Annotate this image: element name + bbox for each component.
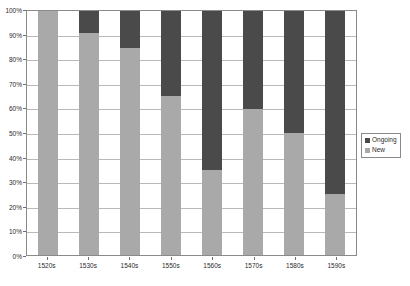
- bar-column-1540s: [109, 11, 150, 255]
- plot-area: [26, 10, 357, 256]
- x-tick-1570s: 1570s: [233, 257, 274, 279]
- bar-column-1560s: [192, 11, 233, 255]
- x-tick-mark-1520s: [47, 257, 48, 260]
- bar-segment-new-1590s: [325, 194, 345, 255]
- x-tick-mark-1590s: [336, 257, 337, 260]
- x-tick-label-1560s: 1560s: [192, 262, 233, 270]
- x-axis: 1520s1530s1540s1550s1560s1570s1580s1590s: [26, 257, 357, 279]
- x-tick-1540s: 1540s: [109, 257, 150, 279]
- bar-column-1570s: [233, 11, 274, 255]
- y-tick-label-30: 30%: [9, 179, 22, 186]
- bar-stack-1580s: [284, 11, 304, 255]
- x-tick-1590s: 1590s: [316, 257, 357, 279]
- x-tick-mark-1560s: [212, 257, 213, 260]
- bar-stack-1520s: [38, 11, 58, 255]
- x-tick-mark-1540s: [129, 257, 130, 260]
- x-tick-label-1570s: 1570s: [233, 262, 274, 270]
- bar-stack-1530s: [79, 11, 99, 255]
- legend-item-new: New: [365, 146, 397, 154]
- x-tick-1530s: 1530s: [67, 257, 108, 279]
- bar-segment-ongoing-1580s: [284, 11, 304, 133]
- y-tick-label-20: 20%: [9, 203, 22, 210]
- bar-stack-1570s: [243, 11, 263, 255]
- bar-segment-ongoing-1560s: [202, 11, 222, 170]
- bar-segment-new-1570s: [243, 109, 263, 255]
- y-tick-label-0: 0%: [13, 253, 22, 260]
- y-axis: 100% 90% 80% 70% 60% 50% 40% 30% 20% 10%…: [0, 0, 26, 266]
- x-tick-label-1520s: 1520s: [26, 262, 67, 270]
- bar-column-1550s: [150, 11, 191, 255]
- stacked-bar-chart: 100% 90% 80% 70% 60% 50% 40% 30% 20% 10%…: [0, 0, 410, 286]
- x-tick-mark-1530s: [88, 257, 89, 260]
- bar-segment-new-1530s: [79, 33, 99, 255]
- x-tick-label-1530s: 1530s: [67, 262, 108, 270]
- y-tick-label-10: 10%: [9, 228, 22, 235]
- bar-segment-ongoing-1530s: [79, 11, 99, 33]
- x-tick-1580s: 1580s: [274, 257, 315, 279]
- x-tick-mark-1550s: [171, 257, 172, 260]
- bar-segment-ongoing-1570s: [243, 11, 263, 109]
- y-tick-label-80: 80%: [9, 56, 22, 63]
- bar-stack-1560s: [202, 11, 222, 255]
- y-tick-label-70: 70%: [9, 80, 22, 87]
- legend-label-new: New: [372, 146, 385, 154]
- bar-segment-ongoing-1540s: [120, 11, 140, 48]
- bar-column-1530s: [68, 11, 109, 255]
- bar-segment-new-1580s: [284, 133, 304, 255]
- bar-column-1590s: [315, 11, 356, 255]
- x-tick-label-1540s: 1540s: [109, 262, 150, 270]
- bar-stack-1590s: [325, 11, 345, 255]
- x-tick-label-1590s: 1590s: [316, 262, 357, 270]
- y-tick-label-40: 40%: [9, 154, 22, 161]
- x-tick-mark-1580s: [295, 257, 296, 260]
- legend-label-ongoing: Ongoing: [372, 136, 397, 144]
- bar-segment-new-1550s: [161, 96, 181, 255]
- bar-stack-1550s: [161, 11, 181, 255]
- bar-segment-new-1560s: [202, 170, 222, 255]
- bar-segment-ongoing-1590s: [325, 11, 345, 194]
- y-tick-label-100: 100%: [5, 7, 22, 14]
- chart-legend: Ongoing New: [361, 133, 401, 158]
- bar-segment-new-1540s: [120, 48, 140, 255]
- x-tick-mark-1570s: [254, 257, 255, 260]
- bar-stack-1540s: [120, 11, 140, 255]
- x-tick-1520s: 1520s: [26, 257, 67, 279]
- bar-segment-ongoing-1550s: [161, 11, 181, 96]
- x-tick-label-1580s: 1580s: [274, 262, 315, 270]
- legend-swatch-new-icon: [365, 148, 370, 153]
- bar-column-1580s: [274, 11, 315, 255]
- bar-segment-new-1520s: [38, 11, 58, 255]
- bar-series-group: [27, 11, 356, 255]
- bar-column-1520s: [27, 11, 68, 255]
- legend-swatch-ongoing-icon: [365, 138, 370, 143]
- y-tick-label-60: 60%: [9, 105, 22, 112]
- legend-item-ongoing: Ongoing: [365, 136, 397, 144]
- x-tick-label-1550s: 1550s: [150, 262, 191, 270]
- y-tick-label-50: 50%: [9, 130, 22, 137]
- y-tick-label-90: 90%: [9, 31, 22, 38]
- x-tick-1560s: 1560s: [192, 257, 233, 279]
- x-tick-1550s: 1550s: [150, 257, 191, 279]
